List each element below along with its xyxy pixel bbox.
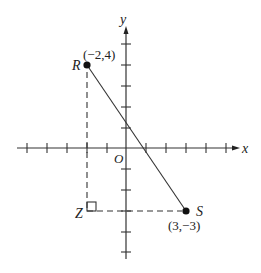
x-axis-arrow-icon (232, 146, 240, 151)
origin-label: O (114, 151, 124, 166)
right-angle-icon (87, 202, 96, 211)
point-s-label: S (196, 204, 203, 219)
segment-rs (87, 65, 186, 211)
coordinate-plane: x y O R (−2,4) S (3,−3) Z (0, 0, 261, 273)
point-r-label: R (71, 58, 81, 73)
point-r-coords: (−2,4) (83, 47, 115, 62)
x-axis-label: x (241, 141, 249, 156)
point-s (182, 207, 189, 214)
y-axis-label: y (118, 12, 127, 27)
point-r (83, 61, 90, 68)
y-axis-arrow-icon (124, 26, 129, 34)
point-z-label: Z (75, 206, 83, 221)
point-s-coords: (3,−3) (168, 218, 200, 233)
